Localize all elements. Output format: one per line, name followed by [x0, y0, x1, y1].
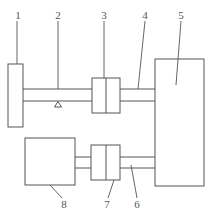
component-6-shaft: [120, 157, 155, 168]
lower-shaft-8-to-7: [75, 157, 91, 168]
label-3: 3: [101, 9, 107, 21]
leader-line-7: [108, 180, 114, 198]
component-3-coupling: [92, 78, 120, 113]
component-7-coupling: [91, 145, 120, 180]
component-1-block: [8, 64, 23, 127]
label-8: 8: [61, 198, 67, 210]
component-4-shaft: [120, 89, 155, 101]
component-2-shaft: [23, 89, 92, 101]
label-1: 1: [15, 9, 21, 21]
component-5-block: [155, 59, 204, 186]
mechanical-diagram: 1 2 3 4 5 6 7 8: [0, 0, 209, 219]
bearing-support-icon: [55, 102, 62, 108]
leader-line-8: [50, 185, 62, 198]
label-4: 4: [142, 9, 148, 21]
leader-line-6: [131, 165, 137, 198]
label-2: 2: [55, 9, 61, 21]
label-6: 6: [134, 198, 140, 210]
component-8-block: [25, 138, 75, 185]
label-5: 5: [178, 9, 184, 21]
leader-line-4: [138, 21, 145, 89]
label-7: 7: [104, 198, 110, 210]
